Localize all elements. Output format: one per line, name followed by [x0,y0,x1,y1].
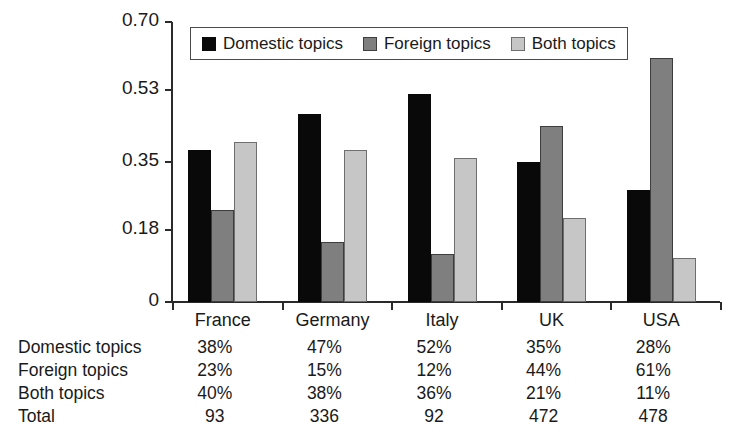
table-cell: 11% [613,382,693,405]
dark-gray-square-icon [363,37,377,51]
x-axis-category-label: USA [601,310,721,330]
table-cell: 44% [504,359,584,382]
y-tick-label: 0.53 [122,78,159,98]
bar-chart: 00.180.350.530.70 Domestic topicsForeign… [0,0,745,305]
legend-label: Domestic topics [223,35,343,53]
data-table: Domestic topics38%47%52%35%28%Foreign to… [0,336,745,428]
black-square-icon [202,37,216,51]
bar-group [188,22,257,302]
x-tick [391,302,393,310]
table-cell: 472 [504,405,584,428]
chart-legend: Domestic topicsForeign topicsBoth topics [190,27,628,60]
bar [650,58,673,302]
table-row: Total9333692472478 [0,405,745,428]
legend-item: Foreign topics [363,35,491,53]
bar-group [627,22,696,302]
table-cell: 28% [613,336,693,359]
legend-label: Foreign topics [384,35,491,53]
y-tick: 0.53 [165,89,172,91]
y-tick: 0.70 [165,21,172,23]
table-row-label: Domestic topics [18,336,142,359]
x-tick [172,302,174,310]
y-tick-label: 0 [148,290,159,310]
bar [321,242,344,302]
table-cell: 38% [175,336,255,359]
bar [234,142,257,302]
bar [408,94,431,302]
table-cell: 61% [613,359,693,382]
bar-group [517,22,586,302]
light-gray-square-icon [511,37,525,51]
x-tick [501,302,503,310]
x-tick [720,302,722,310]
bar [188,150,211,302]
table-cell: 36% [394,382,474,405]
bar [563,218,586,302]
table-row-label: Foreign topics [18,359,128,382]
legend-item: Both topics [511,35,616,53]
table-row-label: Both topics [18,382,105,405]
y-tick-label: 0.35 [122,150,159,170]
table-cell: 38% [284,382,364,405]
bar [431,254,454,302]
table-cell: 23% [175,359,255,382]
x-axis-category-label: France [163,310,283,330]
table-row-label: Total [18,405,55,428]
x-axis-category-label: Germany [272,310,392,330]
table-cell: 15% [284,359,364,382]
bar [344,150,367,302]
table-cell: 47% [284,336,364,359]
plot-area: 00.180.350.530.70 [172,22,720,302]
bar [627,190,650,302]
bar [298,114,321,302]
table-row: Foreign topics23%15%12%44%61% [0,359,745,382]
table-cell: 40% [175,382,255,405]
legend-label: Both topics [532,35,616,53]
y-tick: 0.35 [165,161,172,163]
x-tick [282,302,284,310]
x-tick [610,302,612,310]
table-cell: 35% [504,336,584,359]
table-row: Domestic topics38%47%52%35%28% [0,336,745,359]
table-cell: 21% [504,382,584,405]
bar-group [298,22,367,302]
y-tick: 0 [165,301,172,303]
table-cell: 336 [284,405,364,428]
bar [673,258,696,302]
bar-group [408,22,477,302]
bar [540,126,563,302]
x-axis-category-label: Italy [382,310,502,330]
bar [454,158,477,302]
x-axis-category-label: UK [492,310,612,330]
y-tick-label: 0.70 [122,10,159,30]
table-cell: 12% [394,359,474,382]
y-tick-label: 0.18 [122,218,159,238]
table-row: Both topics40%38%36%21%11% [0,382,745,405]
table-cell: 92 [394,405,474,428]
table-cell: 478 [613,405,693,428]
y-tick: 0.18 [165,229,172,231]
table-cell: 93 [175,405,255,428]
bar [211,210,234,302]
table-cell: 52% [394,336,474,359]
bar [517,162,540,302]
legend-item: Domestic topics [202,35,343,53]
